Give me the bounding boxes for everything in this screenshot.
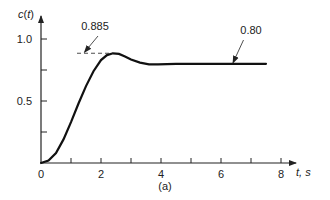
- y-axis-label: c(t): [18, 8, 34, 20]
- svg-text:0: 0: [38, 168, 44, 180]
- step-response-chart: 024680.51.0 0.8850.80 c(t) t, s (a): [0, 0, 330, 200]
- x-axis-label: t, s: [296, 166, 311, 178]
- caption: (a): [158, 180, 171, 192]
- svg-text:0.5: 0.5: [17, 95, 32, 107]
- tick-labels: 024680.51.0: [17, 33, 284, 180]
- svg-text:2: 2: [98, 168, 104, 180]
- ticks: [41, 39, 281, 163]
- axes: [41, 16, 296, 163]
- response-curve: [41, 53, 266, 163]
- svg-text:8: 8: [278, 168, 284, 180]
- svg-text:0.885: 0.885: [81, 20, 109, 32]
- svg-text:4: 4: [158, 168, 164, 180]
- svg-text:1.0: 1.0: [17, 33, 32, 45]
- svg-text:0.80: 0.80: [240, 24, 261, 36]
- svg-text:6: 6: [218, 168, 224, 180]
